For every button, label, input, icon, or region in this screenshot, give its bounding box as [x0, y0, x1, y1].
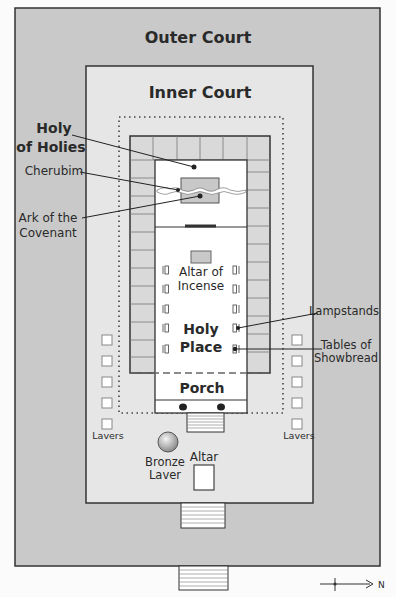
- holy-place-label: Holy: [183, 321, 218, 337]
- altar-label: Altar: [190, 450, 219, 464]
- tables-dot: [233, 347, 237, 351]
- outer-court-label: Outer Court: [145, 28, 252, 47]
- ark-label: Ark of the: [19, 211, 78, 225]
- altar-of-incense-label-2: Incense: [178, 279, 224, 293]
- inner-court-stairs: [181, 503, 225, 528]
- tables-label-2: Showbread: [314, 351, 378, 365]
- altar-of-incense-label: Altar of: [179, 265, 224, 279]
- holy-place-label-2: Place: [180, 339, 222, 355]
- pillar-jachin: [179, 404, 187, 411]
- outer-court-stairs: [179, 566, 228, 590]
- bronze-laver: [158, 432, 178, 452]
- ark-dot: [198, 194, 203, 199]
- porch-stairs: [187, 413, 224, 432]
- tables-label: Tables of: [320, 338, 372, 352]
- inner-court-label: Inner Court: [149, 83, 252, 102]
- porch-label: Porch: [179, 380, 224, 396]
- altar-of-incense: [191, 251, 211, 263]
- altar: [194, 465, 214, 490]
- holy-of-holies-dot: [192, 165, 197, 170]
- north-label: N: [378, 580, 385, 590]
- cherubim-label: Cherubim: [25, 164, 84, 178]
- holy-of-holies-label-2: of Holies: [16, 139, 85, 155]
- lampstands-label: Lampstands: [309, 304, 379, 318]
- lavers-left-label: Lavers: [92, 430, 123, 441]
- temple-diagram: Outer Court Inner Court: [0, 0, 396, 597]
- bronze-laver-label-2: Laver: [149, 468, 181, 482]
- lampstands-dot: [236, 326, 240, 330]
- lavers-right-label: Lavers: [283, 430, 314, 441]
- ark-label-2: Covenant: [19, 226, 77, 240]
- cherubim-dot: [176, 188, 180, 192]
- bronze-laver-label: Bronze: [145, 455, 185, 469]
- north-arrow-icon: [320, 578, 373, 591]
- holy-of-holies-label: Holy: [36, 120, 71, 136]
- pillar-boaz: [217, 404, 225, 411]
